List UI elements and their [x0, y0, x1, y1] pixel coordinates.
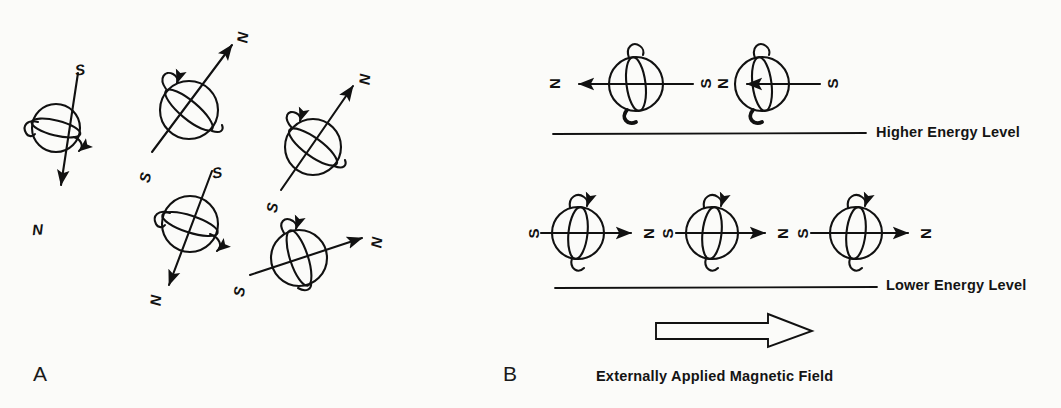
- panel-a-spin-3: [281, 86, 353, 190]
- panel-b-higher-spin-1: [579, 44, 693, 123]
- panel-b-higher-spin-2: [735, 44, 820, 123]
- panel-b-lower-spin-3: [811, 195, 908, 271]
- pole-label-n: N: [357, 74, 373, 86]
- pole-label-s: S: [660, 228, 675, 238]
- pole-label-n: N: [31, 222, 43, 238]
- higher-energy-line: [553, 133, 866, 134]
- panel-a-spin-4: [155, 171, 220, 285]
- external-field-caption: Externally Applied Magnetic Field: [596, 368, 833, 384]
- panel-label-b: B: [503, 362, 518, 386]
- higher-energy-level-label: Higher Energy Level: [876, 124, 1020, 140]
- pole-label-s: S: [526, 228, 541, 238]
- lower-energy-level-label: Lower Energy Level: [886, 277, 1027, 293]
- pole-label-s: S: [795, 228, 810, 238]
- pole-label-n: N: [368, 236, 384, 248]
- panel-b-lower-spin-1: [541, 195, 631, 271]
- figure-line-art: [0, 0, 1061, 408]
- pole-label-n: N: [641, 228, 656, 239]
- pole-label-n: N: [148, 295, 164, 307]
- panel-a-spin-5: [250, 219, 362, 290]
- pole-label-s: S: [698, 78, 713, 88]
- pole-label-n: N: [547, 78, 562, 89]
- pole-label-s: S: [74, 61, 86, 77]
- pole-label-s: S: [825, 78, 840, 88]
- panel-label-a: A: [33, 362, 48, 386]
- panel-a-spin-2: [152, 45, 232, 152]
- nmr-spin-figure: A B Higher Energy Level Lower Energy Lev…: [0, 0, 1061, 408]
- external-field-arrow: [656, 314, 812, 347]
- panel-b-lower-spin-2: [676, 195, 765, 271]
- pole-label-n: N: [775, 228, 790, 239]
- panel-a-spin-1: [25, 73, 82, 185]
- lower-energy-line: [555, 287, 877, 288]
- pole-label-n: N: [715, 78, 730, 89]
- pole-label-n: N: [234, 31, 250, 43]
- pole-label-n: N: [918, 228, 933, 239]
